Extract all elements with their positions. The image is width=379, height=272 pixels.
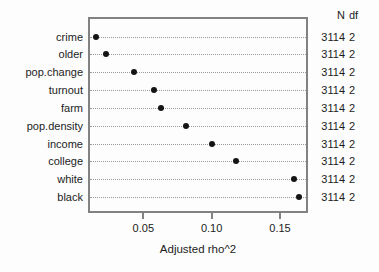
row-guide-line	[90, 179, 306, 180]
n-value: 3114	[313, 155, 345, 167]
df-value: 2	[349, 155, 363, 167]
row-guide-line	[90, 197, 306, 198]
data-point-white	[291, 176, 297, 182]
data-point-college	[233, 158, 239, 164]
dot-plot-figure: crimeolderpop.changeturnoutfarmpop.densi…	[0, 0, 379, 272]
category-label: pop.change	[0, 66, 83, 78]
right-table-row: 31142	[313, 66, 373, 78]
right-table-row: 31142	[313, 48, 373, 60]
category-label: college	[0, 155, 83, 167]
n-value: 3114	[313, 102, 345, 114]
data-point-income	[209, 141, 215, 147]
row-guide-line	[90, 126, 306, 127]
right-table-row: 31142	[313, 102, 373, 114]
category-label: pop.density	[0, 120, 83, 132]
right-table-row: 31142	[313, 84, 373, 96]
df-column-header: df	[349, 9, 363, 21]
df-value: 2	[349, 173, 363, 185]
df-value: 2	[349, 66, 363, 78]
data-point-pop.change	[131, 69, 137, 75]
category-label: farm	[0, 102, 83, 114]
right-table-row: 31142	[313, 173, 373, 185]
x-axis-tick-label: 0.15	[260, 222, 300, 234]
category-label: white	[0, 173, 83, 185]
right-table-row: 31142	[313, 120, 373, 132]
n-value: 3114	[313, 84, 345, 96]
category-label: crime	[0, 31, 83, 43]
n-column-header: N	[313, 9, 345, 21]
row-guide-line	[90, 161, 306, 162]
row-guide-line	[90, 72, 306, 73]
x-axis-tick	[211, 213, 213, 219]
data-point-older	[103, 51, 109, 57]
n-value: 3114	[313, 138, 345, 150]
category-label: black	[0, 191, 83, 203]
data-point-farm	[158, 105, 164, 111]
df-value: 2	[349, 138, 363, 150]
df-value: 2	[349, 120, 363, 132]
row-guide-line	[90, 90, 306, 91]
df-value: 2	[349, 191, 363, 203]
right-table-row: 31142	[313, 31, 373, 43]
x-axis-tick	[279, 213, 281, 219]
right-table-row: 31142	[313, 191, 373, 203]
data-point-crime	[93, 34, 99, 40]
df-value: 2	[349, 48, 363, 60]
right-table-header: N df	[313, 9, 373, 21]
data-point-pop.density	[183, 123, 189, 129]
n-value: 3114	[313, 191, 345, 203]
n-value: 3114	[313, 173, 345, 185]
n-value: 3114	[313, 48, 345, 60]
data-point-turnout	[151, 87, 157, 93]
category-label: turnout	[0, 84, 83, 96]
df-value: 2	[349, 102, 363, 114]
row-guide-line	[90, 37, 306, 38]
n-value: 3114	[313, 31, 345, 43]
x-axis-tick-label: 0.10	[192, 222, 232, 234]
row-guide-line	[90, 144, 306, 145]
right-table-row: 31142	[313, 155, 373, 167]
n-value: 3114	[313, 120, 345, 132]
df-value: 2	[349, 84, 363, 96]
df-value: 2	[349, 31, 363, 43]
n-value: 3114	[313, 66, 345, 78]
x-axis-tick-label: 0.05	[123, 222, 163, 234]
x-axis-tick	[142, 213, 144, 219]
plot-area	[88, 17, 308, 213]
row-guide-line	[90, 108, 306, 109]
category-label: older	[0, 48, 83, 60]
data-point-black	[296, 194, 302, 200]
right-table-row: 31142	[313, 138, 373, 150]
category-label: income	[0, 138, 83, 150]
row-guide-line	[90, 54, 306, 55]
x-axis-title: Adjusted rho^2	[88, 243, 308, 255]
